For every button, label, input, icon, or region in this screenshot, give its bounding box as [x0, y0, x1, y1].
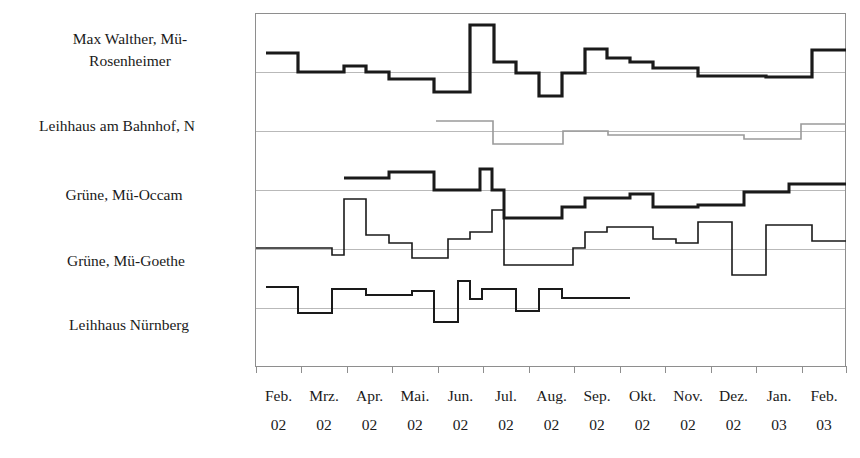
x-label-month-2: Apr. [356, 387, 383, 404]
x-label-year-6: 02 [544, 416, 560, 433]
x-label-month-5: Jul. [495, 387, 517, 404]
x-label-year-4: 02 [453, 416, 469, 433]
x-label-month-6: Aug. [536, 387, 567, 404]
x-label-year-7: 02 [589, 416, 605, 433]
x-label-year-3: 02 [407, 416, 423, 433]
x-label-month-3: Mai. [401, 387, 430, 404]
x-label-year-5: 02 [498, 416, 514, 433]
series-label-max-walther-line1: Max Walther, Mü- [73, 30, 188, 47]
x-label-year-11: 03 [771, 416, 787, 433]
x-label-month-9: Nov. [673, 387, 703, 404]
x-label-year-2: 02 [362, 416, 378, 433]
x-label-month-1: Mrz. [309, 387, 339, 404]
x-label-year-8: 02 [635, 416, 651, 433]
series-label-gruene-goethe: Grüne, Mü-Goethe [67, 252, 185, 269]
x-label-month-11: Jan. [767, 387, 792, 404]
x-label-year-1: 02 [316, 416, 332, 433]
series-label-max-walther-line2: Rosenheimer [89, 52, 172, 69]
series-label-leihhaus-bahnhof: Leihhaus am Bahnhof, N [39, 117, 195, 134]
x-label-month-0: Feb. [265, 387, 292, 404]
series-label-gruene-occam: Grüne, Mü-Occam [65, 186, 182, 203]
x-label-month-7: Sep. [583, 387, 610, 404]
series-label-leihhaus-nuernberg: Leihhaus Nürnberg [69, 316, 189, 333]
x-label-month-10: Dez. [719, 387, 748, 404]
x-label-year-12: 03 [816, 416, 832, 433]
x-label-year-0: 02 [271, 416, 287, 433]
x-label-year-10: 02 [726, 416, 742, 433]
x-label-year-9: 02 [680, 416, 696, 433]
x-label-month-8: Okt. [629, 387, 656, 404]
x-label-month-12: Feb. [810, 387, 837, 404]
x-label-month-4: Jun. [448, 387, 473, 404]
step-line-chart: Max Walther, Mü- Rosenheimer Leihhaus am… [0, 0, 860, 458]
